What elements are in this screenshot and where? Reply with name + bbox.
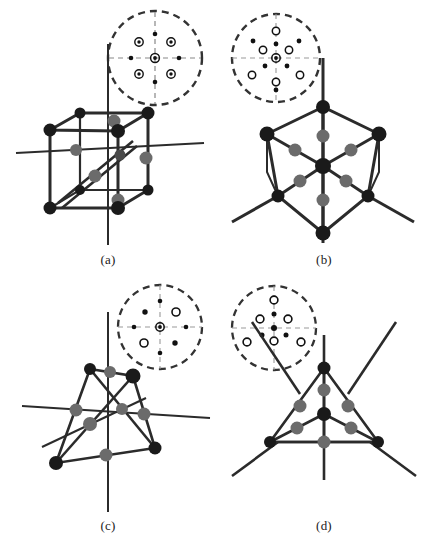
- spot-open: [284, 315, 292, 323]
- atom-vertex: [142, 107, 155, 120]
- atom-vertex: [316, 100, 330, 114]
- atom-vertex: [44, 124, 57, 137]
- axis-lower-left: [232, 196, 278, 222]
- atom-vertex: [318, 362, 331, 375]
- atom-vertex: [272, 190, 285, 203]
- spot-filled-center: [271, 325, 277, 331]
- atom-gray: [340, 175, 353, 188]
- tetrahedron-model: [22, 312, 210, 512]
- axis-lower-right: [368, 196, 414, 222]
- spot-filled: [132, 325, 137, 330]
- atom-gray: [294, 400, 307, 413]
- spot-filled: [263, 64, 268, 69]
- spot-filled: [177, 56, 182, 61]
- atom-gray: [83, 417, 97, 431]
- spot-open: [256, 315, 264, 323]
- axis-upper-right: [348, 322, 396, 394]
- spot-open: [272, 27, 279, 34]
- atom-vertex: [49, 456, 63, 470]
- panel-d-graphic: [216, 280, 432, 518]
- diffraction-pattern-d: [232, 286, 316, 370]
- axis-horizontal: [16, 143, 204, 153]
- tetrahedron-edges: [270, 368, 378, 442]
- panel-b: [216, 0, 432, 252]
- spot-filled: [158, 299, 163, 304]
- spot-open: [272, 78, 279, 85]
- spot-open: [296, 71, 303, 78]
- panel-c-caption: (c): [0, 518, 216, 534]
- spot-ringed: [135, 70, 143, 78]
- spot-open: [285, 46, 292, 53]
- atom-gray: [104, 366, 116, 378]
- atom-vertex: [75, 108, 86, 119]
- atom-vertex: [44, 202, 57, 215]
- spot-filled: [274, 42, 279, 47]
- atom-vertex: [264, 436, 276, 448]
- atom-gray: [289, 144, 302, 157]
- atom-gray: [345, 144, 358, 157]
- diffraction-pattern-c: [118, 285, 202, 369]
- tetrahedron-model-111: [232, 322, 416, 480]
- spot-filled: [272, 312, 277, 317]
- atom-gray: [70, 144, 82, 156]
- spot-filled: [184, 325, 189, 330]
- axis-upper-left: [252, 322, 300, 394]
- atom-vertex: [126, 369, 141, 384]
- diffraction-pattern-b: [232, 14, 320, 102]
- panel-c: [0, 280, 216, 518]
- spot-filled: [153, 32, 158, 37]
- panel-d-caption: (d): [216, 518, 432, 534]
- atom-vertex: [111, 201, 125, 215]
- atom-gray: [342, 400, 355, 413]
- spot-ringed: [167, 38, 175, 46]
- spot-open: [297, 338, 305, 346]
- atom-vertex: [372, 436, 384, 448]
- atom-gray: [115, 150, 126, 161]
- pattern-b-spots: [248, 27, 303, 92]
- spot-filled: [284, 333, 289, 338]
- cube-model-111: [232, 58, 414, 243]
- panel-b-graphic: [216, 0, 432, 252]
- panel-a-caption: (a): [0, 252, 216, 268]
- figure-canvas: (a) (b) (c) (d): [0, 0, 432, 553]
- spot-filled: [285, 64, 290, 69]
- spot-open: [270, 296, 278, 304]
- spot-open: [243, 338, 251, 346]
- atom-gray: [140, 152, 153, 165]
- spot-open: [140, 339, 148, 347]
- spot-open: [259, 46, 266, 53]
- atom-vertex: [372, 127, 387, 142]
- atom-gray: [294, 175, 307, 188]
- atom-gray: [138, 408, 151, 421]
- panel-a: [0, 0, 216, 252]
- spot-filled: [142, 309, 147, 314]
- atom-gray: [317, 130, 330, 143]
- spot-filled: [274, 88, 279, 93]
- atom-vertex-center: [317, 407, 331, 421]
- atom-vertex: [75, 185, 85, 195]
- cube-edges: [50, 113, 148, 208]
- atom-vertex-center: [315, 158, 331, 174]
- spot-open: [248, 71, 255, 78]
- atom-vertex: [260, 127, 275, 142]
- spot-open: [270, 337, 278, 345]
- panel-a-graphic: [0, 0, 216, 252]
- atom-vertex: [84, 363, 96, 375]
- atom-vertex: [362, 190, 375, 203]
- panel-b-caption: (b): [216, 252, 432, 268]
- atom-gray: [318, 436, 331, 449]
- atom-vertex: [111, 124, 125, 138]
- spot-filled: [153, 80, 158, 85]
- atom-gray: [116, 403, 128, 415]
- atom-gray: [291, 422, 304, 435]
- atom-gray: [345, 422, 358, 435]
- panel-c-graphic: [0, 280, 216, 518]
- pattern-d-spots: [243, 296, 305, 346]
- spot-filled: [129, 56, 134, 61]
- atom-vertex: [316, 226, 331, 241]
- atom-vertex: [143, 185, 154, 196]
- atom-gray: [318, 384, 331, 397]
- atom-vertex: [149, 442, 162, 455]
- atom-gray: [317, 194, 330, 207]
- panel-d: [216, 280, 432, 518]
